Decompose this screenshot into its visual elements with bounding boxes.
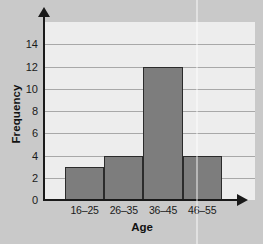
y-tick-label: 0 bbox=[2, 195, 38, 206]
x-tick-label: 46–55 bbox=[183, 204, 222, 216]
histogram-figure: 02468101214 16–2526–3536–4546–55 Frequen… bbox=[0, 0, 263, 244]
y-axis-arrow-icon bbox=[38, 7, 50, 17]
bar-series bbox=[44, 22, 255, 200]
bar bbox=[143, 67, 182, 201]
x-tick-label: 16–25 bbox=[65, 204, 104, 216]
y-tick-label: 4 bbox=[2, 151, 38, 162]
bar bbox=[183, 156, 222, 201]
bar bbox=[65, 167, 104, 200]
bar bbox=[104, 156, 143, 201]
y-tick-label: 12 bbox=[2, 62, 38, 73]
x-tick-label: 36–45 bbox=[143, 204, 182, 216]
y-axis-title: Frequency bbox=[10, 79, 22, 149]
x-axis-title: Age bbox=[44, 221, 240, 233]
x-axis-tick-labels: 16–2526–3536–4546–55 bbox=[44, 204, 255, 220]
y-axis-line bbox=[43, 14, 45, 201]
y-tick-label: 14 bbox=[2, 39, 38, 50]
x-axis-line bbox=[43, 199, 239, 201]
y-tick-label: 2 bbox=[2, 173, 38, 184]
x-tick-label: 26–35 bbox=[104, 204, 143, 216]
